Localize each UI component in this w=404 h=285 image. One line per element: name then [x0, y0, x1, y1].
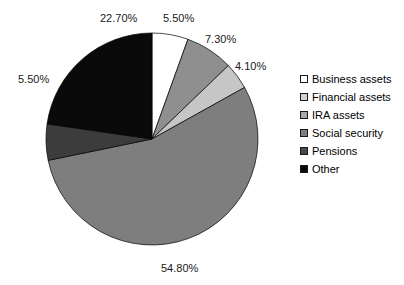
pie-label-business-assets: 5.50% — [163, 12, 194, 25]
pie-label-ira-assets: 4.10% — [235, 60, 266, 73]
legend-item-ira-assets[interactable]: IRA assets — [300, 106, 402, 124]
chart-legend: Business assetsFinancial assetsIRA asset… — [300, 70, 402, 178]
pie-label-other: 22.70% — [100, 12, 137, 25]
legend-item-business-assets[interactable]: Business assets — [300, 70, 402, 88]
legend-label-ira-assets: IRA assets — [312, 109, 365, 121]
legend-item-financial-assets[interactable]: Financial assets — [300, 88, 402, 106]
pie-slice-other[interactable]: Other 22.70% — [47, 33, 152, 139]
legend-swatch-social-security — [300, 129, 308, 137]
legend-label-pensions: Pensions — [312, 145, 357, 157]
legend-swatch-other — [300, 165, 308, 173]
pie-label-pensions: 5.50% — [18, 73, 49, 86]
legend-item-social-security[interactable]: Social security — [300, 124, 402, 142]
legend-swatch-financial-assets — [300, 93, 308, 101]
pie-chart-figure: Business assets 5.50%Financial assets 7.… — [0, 0, 404, 285]
legend-swatch-pensions — [300, 147, 308, 155]
legend-label-financial-assets: Financial assets — [312, 91, 391, 103]
legend-label-social-security: Social security — [312, 127, 383, 139]
pie-label-social-security: 54.80% — [161, 262, 198, 275]
pie-slice-group: Business assets 5.50%Financial assets 7.… — [46, 33, 258, 245]
legend-label-other: Other — [312, 163, 340, 175]
legend-swatch-ira-assets — [300, 111, 308, 119]
pie-label-financial-assets: 7.30% — [205, 33, 236, 46]
legend-item-other[interactable]: Other — [300, 160, 402, 178]
legend-swatch-business-assets — [300, 75, 308, 83]
legend-item-pensions[interactable]: Pensions — [300, 142, 402, 160]
legend-label-business-assets: Business assets — [312, 73, 391, 85]
